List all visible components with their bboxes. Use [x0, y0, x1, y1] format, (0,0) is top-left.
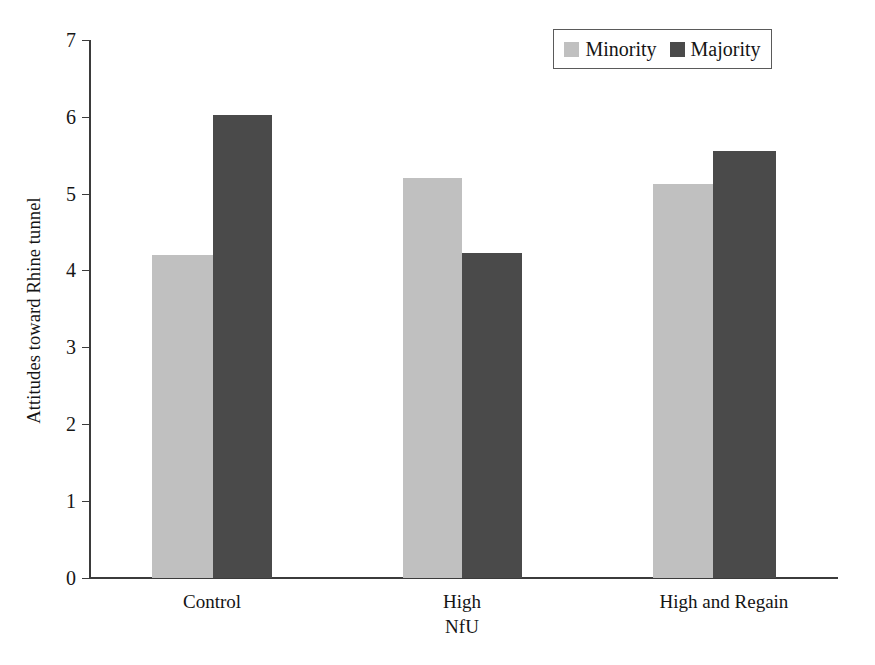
y-tick-label-4: 4: [50, 260, 76, 280]
legend-entry-majority: Majority: [670, 39, 761, 59]
y-tick-mark-0: [82, 578, 89, 579]
legend-entry-minority: Minority: [564, 39, 656, 59]
y-tick-mark-4: [82, 270, 89, 271]
y-tick-label-6: 6: [50, 107, 76, 127]
y-tick-label-5: 5: [50, 184, 76, 204]
y-tick-label-2: 2: [50, 414, 76, 434]
y-tick-label-3: 3: [50, 337, 76, 357]
x-category-label-high-and-regain: High and Regain: [634, 589, 814, 614]
bar-high-nfu-minority: [403, 178, 462, 578]
bar-chart: Attitudes toward Rhine tunnel 7 6 5 4 3 …: [0, 0, 875, 665]
x-category-label-high-nfu: High NfU: [382, 589, 542, 639]
y-tick-mark-3: [82, 347, 89, 348]
y-tick-label-7: 7: [50, 30, 76, 50]
bar-high-nfu-majority: [462, 253, 522, 578]
y-tick-mark-7: [82, 40, 89, 41]
y-tick-label-1: 1: [50, 491, 76, 511]
y-tick-mark-5: [82, 194, 89, 195]
plot-area: [90, 40, 838, 578]
legend-label-minority: Minority: [585, 39, 656, 59]
bar-high-and-regain-minority: [653, 184, 713, 578]
legend-swatch-majority-icon: [670, 42, 685, 57]
legend: Minority Majority: [553, 29, 772, 69]
y-axis-title: Attitudes toward Rhine tunnel: [24, 81, 45, 541]
y-tick-mark-1: [82, 501, 89, 502]
y-tick-label-0: 0: [50, 568, 76, 588]
bar-high-and-regain-majority: [713, 151, 776, 578]
y-tick-mark-2: [82, 424, 89, 425]
bar-control-majority: [213, 115, 272, 578]
y-tick-mark-6: [82, 117, 89, 118]
legend-label-majority: Majority: [691, 39, 761, 59]
x-category-label-control: Control: [132, 589, 292, 614]
bar-control-minority: [152, 255, 213, 578]
legend-swatch-minority-icon: [564, 42, 579, 57]
